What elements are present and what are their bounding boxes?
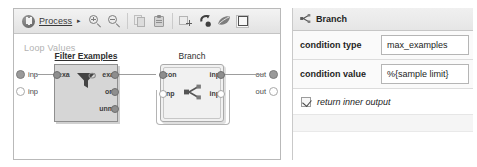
wire-branch-loopback xyxy=(156,90,230,125)
toolbar-separator xyxy=(127,13,128,29)
node-title: Filter Examples xyxy=(54,51,118,61)
process-editor-root: Process ▸ xyxy=(0,0,477,167)
port-dot-icon[interactable] xyxy=(269,87,278,96)
port-label: out xyxy=(256,87,266,96)
return-inner-output-label: return inner output xyxy=(317,97,391,107)
parameters-title: Branch xyxy=(316,14,347,24)
canvas-input-port-1[interactable]: inp xyxy=(16,70,38,79)
node-body[interactable]: exa exa ori unm xyxy=(54,64,118,122)
parameters-panel: Branch condition type max_examples condi… xyxy=(292,8,473,160)
node-filter-examples[interactable]: Filter Examples exa exa xyxy=(54,64,118,122)
parameters-list: condition type max_examples condition va… xyxy=(293,31,473,160)
node-input-port-exa[interactable]: exa xyxy=(58,71,70,78)
process-canvas[interactable]: Loop Values inp inp out out xyxy=(14,34,280,159)
param-row-return-inner-output[interactable]: return inner output xyxy=(293,89,473,115)
zoom-in-icon[interactable] xyxy=(86,12,105,31)
funnel-icon xyxy=(75,71,97,93)
node-output-port-ori[interactable]: ori xyxy=(105,88,114,95)
port-dot-icon[interactable] xyxy=(217,71,225,79)
chevron-right-icon[interactable]: ▸ xyxy=(77,17,81,25)
process-home-icon[interactable] xyxy=(22,15,35,28)
return-inner-output-checkbox[interactable] xyxy=(301,97,311,107)
fit-to-screen-icon[interactable] xyxy=(233,12,252,31)
leaf-icon[interactable] xyxy=(214,12,233,31)
checkmark-icon xyxy=(302,97,312,107)
breadcrumb[interactable]: Process ▸ xyxy=(22,15,86,28)
process-canvas-panel: Process ▸ xyxy=(13,8,281,160)
add-breakpoint-icon[interactable] xyxy=(176,12,195,31)
node-input-port-con[interactable]: con xyxy=(164,71,176,78)
condition-type-input[interactable]: max_examples xyxy=(381,35,469,55)
port-dot-icon[interactable] xyxy=(16,70,25,79)
param-label: condition type xyxy=(293,40,381,50)
port-dot-icon[interactable] xyxy=(111,71,119,79)
port-dot-icon[interactable] xyxy=(53,71,61,79)
canvas-output-port-2[interactable]: out xyxy=(256,87,278,96)
parameters-header: Branch xyxy=(293,8,473,31)
port-dot-icon[interactable] xyxy=(159,71,167,79)
zoom-out-icon[interactable] xyxy=(105,12,124,31)
node-title: Branch xyxy=(160,51,224,61)
node-output-port-unm[interactable]: unm xyxy=(99,105,114,112)
port-dot-icon[interactable] xyxy=(111,88,119,96)
paste-icon[interactable] xyxy=(150,12,169,31)
undo-arrow-icon[interactable] xyxy=(195,12,214,31)
toolbar-separator-2 xyxy=(172,13,173,29)
wire-filter-to-branch xyxy=(118,74,156,75)
canvas-input-port-2[interactable]: inp xyxy=(16,87,38,96)
parameters-empty-row xyxy=(293,115,473,132)
port-label: inp xyxy=(28,87,38,96)
port-dot-icon[interactable] xyxy=(111,105,119,113)
copy-icon[interactable] xyxy=(131,12,150,31)
port-dot-icon[interactable] xyxy=(269,70,278,79)
node-output-port-inp-1[interactable]: inp xyxy=(210,71,221,78)
node-output-port-exa[interactable]: exa xyxy=(102,71,114,78)
breadcrumb-label[interactable]: Process xyxy=(39,16,72,26)
branch-split-icon xyxy=(299,13,311,26)
param-label: condition value xyxy=(293,69,381,79)
param-row-condition-value: condition value %{sample limit} xyxy=(293,60,473,89)
process-toolbar: Process ▸ xyxy=(14,9,280,34)
port-dot-icon[interactable] xyxy=(16,87,25,96)
param-row-condition-type: condition type max_examples xyxy=(293,31,473,60)
condition-value-input[interactable]: %{sample limit} xyxy=(381,64,469,84)
wire-branch-to-output xyxy=(224,74,264,75)
wire-input-to-filter xyxy=(36,74,54,75)
